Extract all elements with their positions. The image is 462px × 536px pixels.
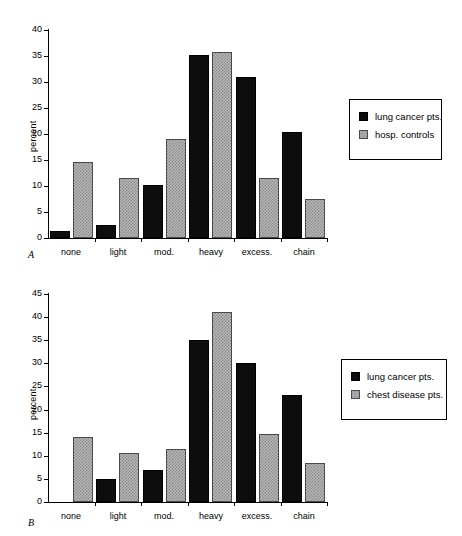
bar-none-series2 <box>73 162 93 238</box>
y-axis-tick-label: 45 <box>14 288 42 298</box>
y-axis-tick-label: 40 <box>14 311 42 321</box>
y-axis-tick <box>44 479 48 480</box>
bar-excess-series1 <box>236 363 256 502</box>
bar-heavy-series2 <box>212 312 232 502</box>
x-axis-tick <box>188 502 189 506</box>
y-axis-tick-label: 0 <box>14 232 42 242</box>
bar-chain-series1 <box>282 395 302 502</box>
chart-legend: lung cancer pts.hosp. controls <box>349 99 442 160</box>
y-axis-tick <box>44 108 48 109</box>
light-swatch-icon <box>359 130 368 139</box>
y-axis-tick-label: 5 <box>14 206 42 216</box>
y-axis-tick-label: 40 <box>14 24 42 34</box>
x-axis-tick <box>95 502 96 506</box>
y-axis-tick-label: 0 <box>14 496 42 506</box>
bar-none-series2 <box>73 437 93 502</box>
y-axis-tick-label: 30 <box>14 357 42 367</box>
y-axis-tick <box>44 386 48 387</box>
bar-none-series1 <box>50 231 70 238</box>
bar-light-series2 <box>119 453 139 502</box>
y-axis-tick <box>44 410 48 411</box>
bar-chain-series1 <box>282 132 302 238</box>
y-axis-line <box>48 29 49 238</box>
bar-mod-series1 <box>143 185 163 238</box>
bar-excess-series1 <box>236 77 256 238</box>
x-axis-tick <box>234 238 235 242</box>
y-axis-tick <box>44 186 48 187</box>
bar-heavy-series2 <box>212 52 232 238</box>
y-axis-tick <box>44 294 48 295</box>
bar-chain-series2 <box>305 463 325 502</box>
y-axis-tick <box>44 30 48 31</box>
x-axis-tick <box>281 238 282 242</box>
x-axis-tick <box>234 502 235 506</box>
y-axis-tick <box>44 317 48 318</box>
legend-item-label: lung cancer pts. <box>367 371 434 382</box>
y-axis-title: percent <box>28 389 38 420</box>
x-axis-tick <box>327 502 328 506</box>
legend-item-label: chest disease pts. <box>367 389 443 400</box>
bar-excess-series2 <box>259 434 279 502</box>
y-axis-tick <box>44 134 48 135</box>
chart-panel-b: 051015202530354045nonelightmod.heavyexce… <box>0 268 462 536</box>
legend-item: hosp. controls <box>359 125 432 143</box>
y-axis-tick-label: 35 <box>14 334 42 344</box>
x-axis-tick <box>141 238 142 242</box>
y-axis-tick-label: 35 <box>14 50 42 60</box>
bar-excess-series2 <box>259 178 279 238</box>
legend-item-label: hosp. controls <box>375 129 434 140</box>
y-axis-tick <box>44 212 48 213</box>
x-axis-category-label: chain <box>274 247 334 257</box>
bar-mod-series2 <box>166 449 186 502</box>
light-swatch-icon <box>351 390 360 399</box>
chart-legend: lung cancer pts.chest disease pts. <box>341 359 447 420</box>
y-axis-tick-label: 15 <box>14 427 42 437</box>
legend-item: lung cancer pts. <box>359 107 432 125</box>
bar-chain-series2 <box>305 199 325 238</box>
dark-swatch-icon <box>351 372 360 381</box>
x-axis-tick <box>327 238 328 242</box>
bar-heavy-series1 <box>189 55 209 238</box>
y-axis-tick <box>44 363 48 364</box>
y-axis-tick <box>44 82 48 83</box>
y-axis-tick <box>44 56 48 57</box>
x-axis-tick <box>281 502 282 506</box>
x-axis-tick <box>141 502 142 506</box>
y-axis-tick-label: 30 <box>14 76 42 86</box>
y-axis-line <box>48 293 49 502</box>
x-axis-tick <box>188 238 189 242</box>
legend-item: lung cancer pts. <box>351 367 437 385</box>
x-axis-tick <box>95 238 96 242</box>
y-axis-tick-label: 10 <box>14 450 42 460</box>
y-axis-tick <box>44 502 48 503</box>
bar-light-series1 <box>96 479 116 502</box>
y-axis-tick <box>44 456 48 457</box>
panel-letter-a: A <box>28 249 34 260</box>
bar-heavy-series1 <box>189 340 209 502</box>
panel-letter-b: B <box>28 517 34 528</box>
bar-light-series1 <box>96 225 116 238</box>
legend-item-label: lung cancer pts. <box>375 111 442 122</box>
y-axis-tick <box>44 160 48 161</box>
dark-swatch-icon <box>359 112 368 121</box>
bar-mod-series1 <box>143 470 163 502</box>
y-axis-tick-label: 15 <box>14 154 42 164</box>
bar-light-series2 <box>119 178 139 238</box>
y-axis-tick <box>44 340 48 341</box>
chart-panel-a: 0510152025303540nonelightmod.heavyexcess… <box>0 0 462 268</box>
legend-item: chest disease pts. <box>351 385 437 403</box>
y-axis-title: percent <box>28 121 38 152</box>
y-axis-tick-label: 25 <box>14 102 42 112</box>
x-axis-category-label: chain <box>274 511 334 521</box>
y-axis-tick <box>44 433 48 434</box>
bar-mod-series2 <box>166 139 186 238</box>
y-axis-tick <box>44 238 48 239</box>
y-axis-tick-label: 10 <box>14 180 42 190</box>
y-axis-tick-label: 5 <box>14 473 42 483</box>
